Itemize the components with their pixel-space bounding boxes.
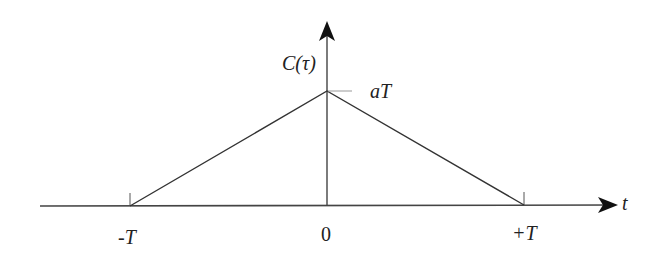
tick-label-plus-t: +T: [512, 222, 537, 245]
tick-label-minus-t: -T: [118, 226, 136, 249]
peak-label: aT: [370, 80, 391, 103]
y-axis-label: C(τ): [282, 52, 316, 75]
diagram-graphics: [0, 0, 653, 257]
x-axis-label: t: [622, 192, 628, 215]
tick-label-zero: 0: [321, 223, 331, 246]
x-axis: [40, 205, 612, 206]
autocorrelation-diagram: C(τ) aT t -T 0 +T: [0, 0, 653, 257]
